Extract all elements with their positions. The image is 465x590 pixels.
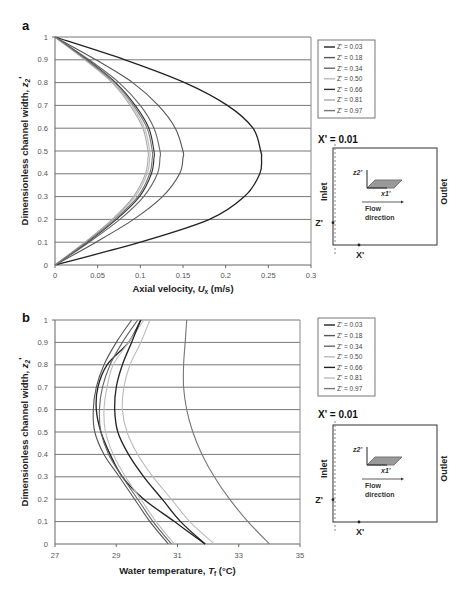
z2-axis-label: z2' (352, 169, 362, 176)
x-tick-label: 0.2 (220, 271, 230, 280)
y-tick-label: 1 (44, 316, 48, 325)
legend-label: Z' = 0.97 (337, 107, 363, 114)
y-tick-label: 0.5 (38, 428, 48, 437)
legend-label: Z' = 0.66 (337, 364, 363, 371)
flow-label-line1: Flow (365, 482, 381, 489)
legend-label: Z' = 0.66 (337, 86, 363, 93)
x-marker-dot (358, 244, 361, 247)
y-tick-label: 0.4 (38, 169, 48, 178)
position-label: X' = 0.01 (318, 409, 358, 420)
y-tick-label: 0.2 (38, 215, 48, 224)
legend-label: Z' = 0.97 (337, 385, 363, 392)
y-tick-label: 0.3 (38, 192, 48, 201)
x-axis-label: Water temperature, Tf (°C) (119, 565, 236, 577)
x1-axis-label: x1' (380, 190, 391, 197)
y-tick-label: 0.1 (38, 517, 48, 526)
y-tick-label: 0.6 (38, 405, 48, 414)
z-marker-dot (332, 221, 335, 224)
outlet-label: Outlet (439, 456, 449, 482)
x-tick-label: 35 (296, 551, 304, 560)
y-tick-label: 0 (44, 261, 48, 270)
x-tick-label: 0.1 (135, 271, 145, 280)
y-tick-label: 0.8 (38, 78, 48, 87)
x-axis-label: Axial velocity, Ux (m/s) (132, 283, 233, 295)
legend-label: Z' = 0.81 (337, 96, 363, 103)
z-marker-label: Z' (315, 218, 323, 228)
inlet-label: Inlet (319, 182, 329, 201)
y-tick-label: 0.3 (38, 472, 48, 481)
x-marker-label: X' (356, 250, 364, 260)
flow-label-line2: direction (365, 491, 395, 498)
legend-label: Z' = 0.18 (337, 332, 363, 339)
x-marker-label: X' (356, 527, 364, 537)
y-tick-label: 0 (44, 540, 48, 549)
legend-label: Z' = 0.34 (337, 65, 363, 72)
x-tick-label: 31 (173, 551, 181, 560)
legend-label: Z' = 0.18 (337, 54, 363, 61)
y-tick-label: 0.4 (38, 450, 48, 459)
panel-label: a (22, 18, 30, 33)
z-marker-label: Z' (315, 495, 323, 505)
figure-canvas: a00.10.20.30.40.50.60.70.80.9100.050.10.… (0, 0, 465, 590)
z2-axis-label: z2' (352, 446, 362, 453)
x-marker-dot (358, 521, 361, 524)
legend-label: Z' = 0.03 (337, 43, 363, 50)
flow-label-line1: Flow (365, 205, 381, 212)
y-tick-label: 0.5 (38, 147, 48, 156)
z-marker-dot (332, 498, 335, 501)
x-tick-label: 0 (53, 271, 57, 280)
legend-label: Z' = 0.50 (337, 75, 363, 82)
y-tick-label: 0.9 (38, 338, 48, 347)
y-tick-label: 0.2 (38, 495, 48, 504)
position-label: X' = 0.01 (318, 134, 358, 145)
x-tick-label: 27 (51, 551, 59, 560)
y-tick-label: 0.7 (38, 383, 48, 392)
y-tick-label: 0.7 (38, 101, 48, 110)
x-tick-label: 0.3 (306, 271, 316, 280)
flow-label-line2: direction (365, 214, 395, 221)
y-tick-label: 0.6 (38, 124, 48, 133)
panel-label: b (22, 310, 30, 325)
x-tick-label: 0.15 (176, 271, 191, 280)
x1-axis-label: x1' (380, 467, 391, 474)
y-axis-label: Dimensionless channel width, z2' (16, 77, 31, 226)
panel-a: a00.10.20.30.40.50.60.70.80.9100.050.10.… (16, 18, 449, 295)
y-tick-label: 0.1 (38, 238, 48, 247)
channel-inset-diagram: InletOutletZ'X'z2'x1'Flowdirection (315, 144, 449, 260)
y-tick-label: 1 (44, 33, 48, 42)
y-tick-label: 0.9 (38, 55, 48, 64)
legend-label: Z' = 0.50 (337, 353, 363, 360)
x-tick-label: 29 (112, 551, 120, 560)
inlet-label: Inlet (319, 459, 329, 478)
x-tick-label: 33 (235, 551, 243, 560)
x-tick-label: 0.25 (261, 271, 276, 280)
y-axis-label: Dimensionless channel width, z2' (16, 358, 31, 507)
outlet-label: Outlet (439, 179, 449, 205)
x-tick-label: 0.05 (90, 271, 105, 280)
legend-label: Z' = 0.34 (337, 343, 363, 350)
panel-b: b00.10.20.30.40.50.60.70.80.912729313335… (16, 310, 449, 577)
legend-label: Z' = 0.81 (337, 374, 363, 381)
y-tick-label: 0.8 (38, 360, 48, 369)
legend-label: Z' = 0.03 (337, 321, 363, 328)
channel-inset-diagram: InletOutletZ'X'z2'x1'Flowdirection (315, 421, 449, 537)
